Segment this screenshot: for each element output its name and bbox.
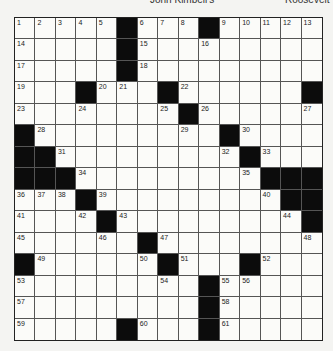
grid-cell[interactable] bbox=[56, 233, 76, 254]
grid-cell[interactable] bbox=[261, 39, 281, 60]
grid-cell[interactable]: 43 bbox=[117, 211, 137, 232]
grid-cell[interactable] bbox=[240, 211, 260, 232]
grid-cell[interactable]: 8 bbox=[179, 18, 199, 39]
grid-cell[interactable] bbox=[302, 276, 322, 297]
grid-cell[interactable] bbox=[76, 125, 96, 146]
grid-cell[interactable] bbox=[261, 125, 281, 146]
grid-cell[interactable] bbox=[199, 82, 219, 103]
grid-cell[interactable]: 10 bbox=[240, 18, 260, 39]
grid-cell[interactable] bbox=[117, 233, 137, 254]
grid-cell[interactable] bbox=[179, 319, 199, 340]
grid-cell[interactable]: 7 bbox=[158, 18, 178, 39]
grid-cell[interactable] bbox=[261, 319, 281, 340]
grid-cell[interactable] bbox=[220, 39, 240, 60]
grid-cell[interactable] bbox=[261, 276, 281, 297]
grid-cell[interactable] bbox=[281, 276, 301, 297]
grid-cell[interactable] bbox=[76, 39, 96, 60]
grid-cell[interactable] bbox=[261, 104, 281, 125]
grid-cell[interactable] bbox=[179, 147, 199, 168]
grid-cell[interactable] bbox=[302, 125, 322, 146]
grid-cell[interactable]: 34 bbox=[76, 168, 96, 189]
grid-cell[interactable] bbox=[179, 276, 199, 297]
grid-cell[interactable] bbox=[199, 211, 219, 232]
grid-cell[interactable] bbox=[56, 39, 76, 60]
grid-cell[interactable]: 12 bbox=[281, 18, 301, 39]
grid-cell[interactable] bbox=[240, 104, 260, 125]
grid-cell[interactable] bbox=[302, 254, 322, 275]
grid-cell[interactable] bbox=[240, 297, 260, 318]
grid-cell[interactable]: 58 bbox=[220, 297, 240, 318]
grid-cell[interactable] bbox=[76, 319, 96, 340]
grid-cell[interactable] bbox=[240, 319, 260, 340]
grid-cell[interactable]: 39 bbox=[97, 190, 117, 211]
grid-cell[interactable] bbox=[76, 276, 96, 297]
grid-cell[interactable] bbox=[179, 39, 199, 60]
grid-cell[interactable] bbox=[117, 190, 137, 211]
grid-cell[interactable] bbox=[199, 61, 219, 82]
grid-cell[interactable]: 49 bbox=[35, 254, 55, 275]
grid-cell[interactable] bbox=[302, 319, 322, 340]
grid-cell[interactable]: 26 bbox=[199, 104, 219, 125]
grid-cell[interactable]: 17 bbox=[15, 61, 35, 82]
grid-cell[interactable]: 32 bbox=[220, 147, 240, 168]
grid-cell[interactable] bbox=[302, 61, 322, 82]
grid-cell[interactable] bbox=[158, 297, 178, 318]
grid-cell[interactable] bbox=[56, 276, 76, 297]
grid-cell[interactable] bbox=[35, 82, 55, 103]
grid-cell[interactable]: 56 bbox=[240, 276, 260, 297]
grid-cell[interactable]: 4 bbox=[76, 18, 96, 39]
grid-cell[interactable] bbox=[158, 319, 178, 340]
grid-cell[interactable] bbox=[97, 254, 117, 275]
grid-cell[interactable]: 61 bbox=[220, 319, 240, 340]
grid-cell[interactable]: 53 bbox=[15, 276, 35, 297]
grid-cell[interactable] bbox=[281, 125, 301, 146]
grid-cell[interactable] bbox=[97, 104, 117, 125]
grid-cell[interactable] bbox=[158, 211, 178, 232]
grid-cell[interactable]: 23 bbox=[15, 104, 35, 125]
grid-cell[interactable]: 6 bbox=[138, 18, 158, 39]
grid-cell[interactable] bbox=[179, 211, 199, 232]
grid-cell[interactable] bbox=[240, 82, 260, 103]
grid-cell[interactable]: 46 bbox=[97, 233, 117, 254]
grid-cell[interactable]: 30 bbox=[240, 125, 260, 146]
grid-cell[interactable] bbox=[281, 82, 301, 103]
grid-cell[interactable]: 57 bbox=[15, 297, 35, 318]
grid-cell[interactable]: 9 bbox=[220, 18, 240, 39]
grid-cell[interactable] bbox=[199, 125, 219, 146]
grid-cell[interactable] bbox=[220, 104, 240, 125]
grid-cell[interactable] bbox=[97, 39, 117, 60]
grid-cell[interactable] bbox=[56, 211, 76, 232]
grid-cell[interactable] bbox=[240, 233, 260, 254]
grid-cell[interactable] bbox=[138, 125, 158, 146]
grid-cell[interactable] bbox=[158, 190, 178, 211]
grid-cell[interactable]: 50 bbox=[138, 254, 158, 275]
grid-cell[interactable] bbox=[302, 297, 322, 318]
grid-cell[interactable] bbox=[281, 297, 301, 318]
grid-cell[interactable] bbox=[281, 147, 301, 168]
grid-cell[interactable] bbox=[261, 211, 281, 232]
grid-cell[interactable] bbox=[261, 233, 281, 254]
grid-cell[interactable] bbox=[35, 319, 55, 340]
grid-cell[interactable] bbox=[138, 297, 158, 318]
grid-cell[interactable] bbox=[199, 254, 219, 275]
grid-cell[interactable]: 25 bbox=[158, 104, 178, 125]
grid-cell[interactable] bbox=[220, 211, 240, 232]
grid-cell[interactable] bbox=[56, 125, 76, 146]
grid-cell[interactable] bbox=[199, 168, 219, 189]
grid-cell[interactable] bbox=[281, 319, 301, 340]
grid-cell[interactable] bbox=[56, 61, 76, 82]
grid-cell[interactable] bbox=[35, 211, 55, 232]
grid-cell[interactable]: 48 bbox=[302, 233, 322, 254]
grid-cell[interactable] bbox=[138, 147, 158, 168]
grid-cell[interactable] bbox=[35, 276, 55, 297]
grid-cell[interactable]: 54 bbox=[158, 276, 178, 297]
grid-cell[interactable] bbox=[35, 39, 55, 60]
grid-cell[interactable] bbox=[138, 168, 158, 189]
grid-cell[interactable] bbox=[117, 276, 137, 297]
grid-cell[interactable] bbox=[240, 190, 260, 211]
grid-cell[interactable] bbox=[76, 147, 96, 168]
grid-cell[interactable] bbox=[220, 168, 240, 189]
grid-cell[interactable] bbox=[56, 319, 76, 340]
grid-cell[interactable] bbox=[35, 104, 55, 125]
grid-cell[interactable] bbox=[281, 104, 301, 125]
